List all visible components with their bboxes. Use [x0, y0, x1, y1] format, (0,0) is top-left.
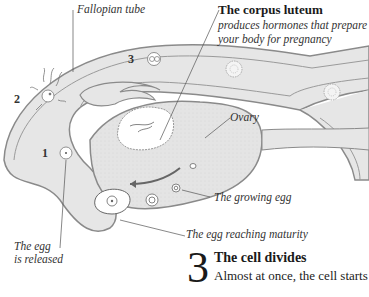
egg-morula-2	[324, 84, 340, 100]
step-title: The cell divides	[214, 250, 307, 266]
label-ovary: Ovary	[230, 111, 259, 124]
label-egg-released-2: is released	[14, 253, 63, 266]
stage-number-2: 2	[14, 92, 20, 107]
egg-stage-1	[60, 147, 72, 159]
label-egg-maturity: The egg reaching maturity	[186, 228, 308, 241]
egg-morula-1	[226, 61, 242, 77]
step-number: 3	[187, 246, 209, 290]
label-growing-egg: The growing egg	[214, 191, 292, 204]
label-fallopian-tube: Fallopian tube	[77, 3, 145, 16]
label-corpus-luteum-desc-1: produces hormones that prepare	[218, 18, 367, 32]
stage-number-3: 3	[128, 52, 134, 67]
step-body: Almost at once, the cell starts	[214, 268, 368, 284]
label-corpus-luteum-desc-2: your body for pregnancy	[218, 32, 332, 46]
label-egg-released-1: The egg	[14, 240, 51, 253]
label-corpus-luteum-title: The corpus luteum	[218, 2, 323, 18]
stage-number-1: 1	[42, 146, 48, 161]
egg-stage-3-two-cell	[148, 53, 161, 66]
